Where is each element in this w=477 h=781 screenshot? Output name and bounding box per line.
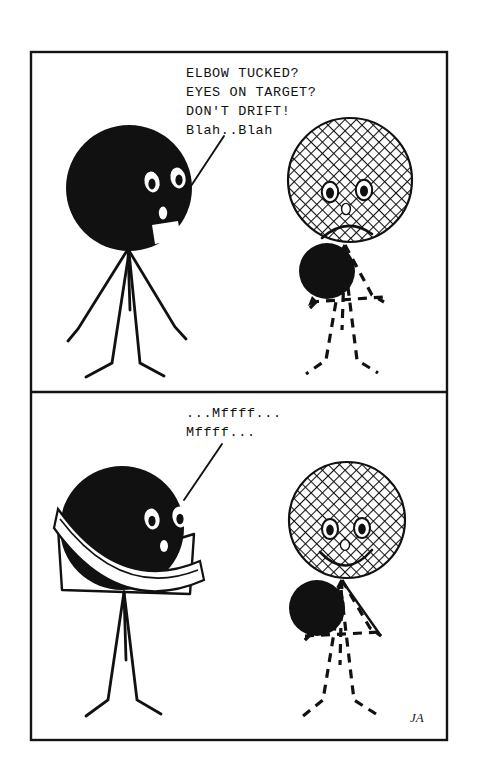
gagged-coach-legs — [86, 592, 161, 716]
panel-1-speech-pointer — [191, 136, 224, 186]
coach-limbs — [68, 249, 186, 377]
panel-1-caption-line-4: Blah..Blah — [186, 123, 273, 138]
panel-1-caption-line-1: ELBOW TUCKED? — [186, 66, 299, 81]
student-medicine-ball — [299, 243, 355, 299]
panel-1-caption-line-3: DON'T DRIFT! — [186, 104, 290, 119]
panel-1-caption: ELBOW TUCKED? EYES ON TARGET? DON'T DRIF… — [186, 66, 317, 138]
comic-page: ELBOW TUCKED? EYES ON TARGET? DON'T DRIF… — [0, 0, 477, 781]
panel-2-caption: ...Mffff... Mffff... — [186, 406, 282, 440]
panel-2-caption-line-1: ...Mffff... — [186, 406, 282, 421]
happy-student-solid-arm-right — [343, 582, 381, 636]
panel-2: ...Mffff... Mffff... — [54, 406, 424, 725]
gagged-coach-nose — [160, 540, 168, 552]
panel-1-right-figure — [286, 116, 416, 374]
happy-student-medicine-ball — [289, 580, 345, 636]
coach-mouth — [152, 221, 181, 244]
coach-nose — [159, 207, 167, 220]
panel-1: ELBOW TUCKED? EYES ON TARGET? DON'T DRIF… — [66, 66, 416, 377]
student-nose — [342, 203, 351, 214]
comic-canvas: ELBOW TUCKED? EYES ON TARGET? DON'T DRIF… — [0, 0, 477, 781]
happy-student-nose — [340, 540, 349, 551]
panel-2-speech-pointer — [184, 444, 222, 500]
panel-1-left-figure — [66, 125, 192, 377]
panel-1-caption-line-2: EYES ON TARGET? — [186, 85, 317, 100]
artist-signature: JA — [410, 710, 424, 725]
panel-2-left-figure — [54, 466, 204, 716]
panel-2-caption-line-2: Mffff... — [186, 425, 256, 440]
panel-2-right-figure — [287, 460, 409, 716]
